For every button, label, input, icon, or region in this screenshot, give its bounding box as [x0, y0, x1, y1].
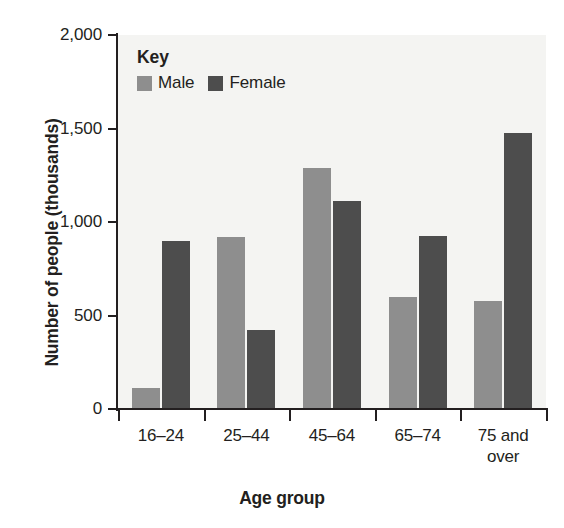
x-axis-tick-label-line: over — [460, 446, 546, 467]
y-axis-tick-label: 1,500 — [2, 119, 102, 139]
legend-swatch-icon — [208, 76, 223, 91]
y-axis-tick-label: 1,000 — [2, 212, 102, 232]
bar-female-3[interactable] — [419, 236, 447, 409]
x-axis-tick-label: 16–24 — [118, 425, 204, 446]
x-axis-tick-label-line: 75 and — [460, 425, 546, 446]
bar-female-2[interactable] — [333, 201, 361, 409]
x-axis-title: Age group — [0, 488, 564, 509]
bar-group — [289, 35, 375, 409]
legend-items: MaleFemale — [137, 73, 300, 93]
bar-male-0[interactable] — [132, 388, 160, 409]
y-axis-tick-label: 2,000 — [2, 25, 102, 45]
x-axis-tick — [289, 410, 291, 421]
legend-swatch-icon — [137, 76, 152, 91]
bar-group — [375, 35, 461, 409]
y-axis-tick-label: 500 — [2, 306, 102, 326]
x-axis-tick — [204, 410, 206, 421]
x-axis-tick-label: 75 andover — [460, 425, 546, 468]
x-axis-tick-label-line: 16–24 — [118, 425, 204, 446]
legend: Key MaleFemale — [137, 47, 300, 93]
y-axis-tick — [108, 128, 117, 130]
x-axis-tick — [546, 410, 548, 421]
x-axis-tick — [118, 410, 120, 421]
legend-item-label: Female — [229, 73, 285, 93]
bar-male-1[interactable] — [217, 237, 245, 409]
x-axis-tick-label: 25–44 — [204, 425, 290, 446]
x-axis-tick-label-line: 45–64 — [289, 425, 375, 446]
bar-male-2[interactable] — [303, 168, 331, 409]
x-axis-tick-label: 65–74 — [375, 425, 461, 446]
x-axis-tick-label: 45–64 — [289, 425, 375, 446]
bar-group — [460, 35, 546, 409]
y-axis-tick — [108, 221, 117, 223]
x-axis-tick — [460, 410, 462, 421]
y-axis-tick — [108, 408, 117, 410]
x-axis-tick-label-line: 25–44 — [204, 425, 290, 446]
bar-female-4[interactable] — [504, 133, 532, 409]
x-axis-line — [116, 408, 548, 410]
y-axis-tick-label: 0 — [2, 399, 102, 419]
x-axis-tick-label-line: 65–74 — [375, 425, 461, 446]
bar-female-1[interactable] — [247, 330, 275, 409]
bar-male-3[interactable] — [389, 297, 417, 409]
legend-title: Key — [137, 47, 300, 68]
y-axis-tick — [108, 34, 117, 36]
bar-male-4[interactable] — [474, 301, 502, 409]
bar-chart: Number of people (thousands) 05001,0001,… — [0, 0, 564, 528]
legend-item-male[interactable]: Male — [137, 73, 194, 93]
legend-item-label: Male — [158, 73, 194, 93]
x-axis-tick — [375, 410, 377, 421]
y-axis-tick — [108, 315, 117, 317]
legend-item-female[interactable]: Female — [208, 73, 285, 93]
bar-female-0[interactable] — [162, 241, 190, 409]
